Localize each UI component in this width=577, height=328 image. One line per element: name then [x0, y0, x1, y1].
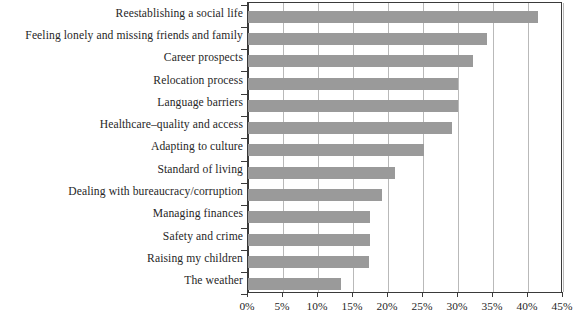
x-tick-20pct [387, 292, 388, 297]
category-axis-tick [241, 138, 247, 139]
bar [248, 122, 452, 134]
x-tick-35pct [492, 292, 493, 297]
x-tick-40pct [527, 292, 528, 297]
x-tick-25pct [422, 292, 423, 297]
category-axis-tick [241, 49, 247, 50]
gridline-35pct [493, 3, 494, 292]
category-axis-tick [241, 183, 247, 184]
category-label: Language barriers [0, 97, 243, 109]
gridline-30pct [458, 3, 459, 292]
bar [248, 100, 458, 112]
category-axis-tick [241, 27, 247, 28]
bar [248, 78, 458, 90]
category-axis-tick [241, 71, 247, 72]
x-tick-10pct [317, 292, 318, 297]
x-tick-0pct [247, 292, 248, 297]
category-axis-tick [241, 294, 247, 295]
category-label: The weather [0, 275, 243, 287]
x-axis-line [247, 292, 562, 293]
category-label: Career prospects [0, 52, 243, 64]
x-tick-label: 35% [472, 300, 512, 313]
category-axis-tick [241, 228, 247, 229]
category-axis-tick [241, 161, 247, 162]
category-label: Safety and crime [0, 231, 243, 243]
category-axis-tick [241, 5, 247, 6]
category-label: Reestablishing a social life [0, 8, 243, 20]
category-axis-tick [241, 94, 247, 95]
x-tick-30pct [457, 292, 458, 297]
gridline-45pct [563, 3, 564, 292]
bar [248, 11, 538, 23]
x-tick-label: 10% [297, 300, 337, 313]
bar [248, 189, 382, 201]
bar [248, 211, 370, 223]
category-label: Relocation process [0, 75, 243, 87]
x-tick-label: 20% [367, 300, 407, 313]
category-label: Managing finances [0, 208, 243, 220]
bar [248, 33, 487, 45]
bar [248, 234, 370, 246]
category-axis-tick [241, 205, 247, 206]
category-axis-tick [241, 250, 247, 251]
x-tick-label: 30% [437, 300, 477, 313]
category-label: Adapting to culture [0, 141, 243, 153]
x-tick-label: 45% [542, 300, 577, 313]
gridline-40pct [528, 3, 529, 292]
category-label: Healthcare–quality and access [0, 119, 243, 131]
category-label: Dealing with bureaucracy/corruption [0, 186, 243, 198]
x-tick-15pct [352, 292, 353, 297]
x-tick-label: 40% [507, 300, 547, 313]
bar [248, 55, 473, 67]
x-tick-label: 5% [262, 300, 302, 313]
category-label: Standard of living [0, 164, 243, 176]
category-labels: Reestablishing a social lifeFeeling lone… [0, 0, 243, 292]
x-tick-label: 0% [227, 300, 267, 313]
category-axis-tick [241, 272, 247, 273]
x-tick-45pct [562, 292, 563, 297]
bar [248, 144, 424, 156]
horizontal-bar-chart: Reestablishing a social lifeFeeling lone… [0, 0, 577, 328]
bar [248, 278, 341, 290]
plot-area [247, 2, 562, 292]
bar [248, 256, 369, 268]
x-tick-label: 25% [402, 300, 442, 313]
category-label: Raising my children [0, 253, 243, 265]
bar [248, 167, 395, 179]
category-label: Feeling lonely and missing friends and f… [0, 30, 243, 42]
x-tick-5pct [282, 292, 283, 297]
x-tick-label: 15% [332, 300, 372, 313]
category-axis-tick [241, 116, 247, 117]
